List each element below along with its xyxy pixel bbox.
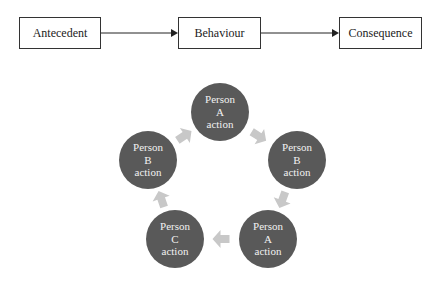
block-arrow-shape: [172, 124, 196, 148]
cycle-node-5: [119, 131, 177, 189]
cycle-arrow-icon: [271, 189, 294, 211]
block-arrow-shape: [247, 124, 271, 148]
cycle-arrow-icon: [247, 124, 271, 148]
block-arrow-shape: [150, 188, 173, 210]
cycle-node-1: [191, 83, 249, 141]
block-arrow-shape: [213, 230, 230, 248]
cycle-arrow-icon: [172, 124, 196, 148]
arrowhead-icon: [332, 29, 339, 37]
flow-arrow-antecedent-to-behaviour: [101, 29, 178, 37]
cycle-node-4: [146, 210, 204, 268]
cycle-node-2: [268, 131, 326, 189]
flow-arrow-behaviour-to-consequence: [261, 29, 339, 37]
block-arrow-shape: [271, 189, 294, 211]
diagram-canvas: [0, 0, 438, 283]
cycle-arrow-icon: [213, 230, 230, 248]
cycle-arrow-icon: [150, 188, 173, 210]
arrowhead-icon: [171, 29, 178, 37]
cycle-node-3: [239, 210, 297, 268]
